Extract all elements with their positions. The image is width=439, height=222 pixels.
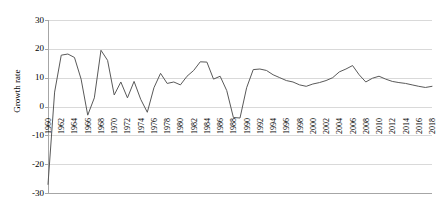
x-tick-label: 1970 [111, 118, 119, 134]
x-tick-label: 1976 [151, 118, 159, 134]
x-tick-label: 1966 [85, 118, 93, 134]
x-tick-label: 1972 [124, 118, 132, 134]
x-tick-label: 1986 [217, 118, 225, 134]
x-tick-label: 2000 [310, 118, 318, 134]
x-tick-label: 1982 [191, 118, 199, 134]
x-tick-label: 1996 [283, 118, 291, 134]
growth-rate-line-chart: Growth rate 3020100-10-20-30 19601962196… [0, 0, 439, 222]
x-tick-label: 2006 [350, 118, 358, 134]
x-tick-label: 2016 [416, 118, 424, 134]
x-tick-label: 2010 [376, 118, 384, 134]
x-tick-label: 1990 [244, 118, 252, 134]
x-tick-label: 1978 [164, 118, 172, 134]
x-tick-label: 1988 [230, 118, 238, 134]
x-tick-label: 1984 [204, 118, 212, 134]
x-tick-label: 1980 [177, 118, 185, 134]
x-tick-label: 1998 [297, 118, 305, 134]
x-tick-label: 2012 [389, 118, 397, 134]
x-tick-label: 2002 [323, 118, 331, 134]
x-tick-label: 2018 [429, 118, 437, 134]
x-tick-label: 2014 [403, 118, 411, 134]
x-tick-label: 1964 [71, 118, 79, 134]
x-tick-label: 1992 [257, 118, 265, 134]
x-tick-label: 1968 [98, 118, 106, 134]
x-tick-label: 1974 [138, 118, 146, 134]
x-tick-label: 2008 [363, 118, 371, 134]
x-axis-tick-labels: 1960196219641966196819701972197419761978… [0, 0, 439, 222]
x-tick-label: 1962 [58, 118, 66, 134]
x-tick-label: 1960 [45, 118, 53, 134]
x-tick-label: 1994 [270, 118, 278, 134]
x-tick-label: 2004 [336, 118, 344, 134]
